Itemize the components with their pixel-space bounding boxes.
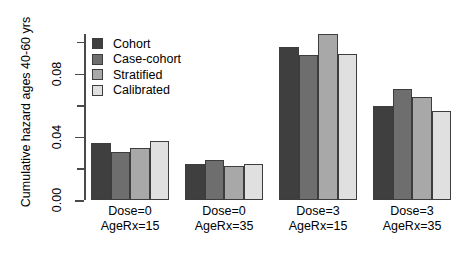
bar-chart-figure: Cumulative hazard ages 40-60 yrs 0.000.0… — [0, 0, 467, 255]
x-axis-group-label: Dose=3AgeRx=15 — [268, 204, 368, 234]
y-axis-tick-label: 0.00 — [50, 183, 64, 217]
legend-item: Case-cohort — [92, 52, 242, 68]
bar — [111, 152, 131, 200]
bar — [150, 141, 170, 200]
x-axis-label-line: Dose=0 — [80, 204, 180, 219]
bar — [91, 143, 111, 200]
bar — [279, 47, 299, 200]
legend-swatch-icon — [92, 85, 103, 96]
legend-label: Cohort — [113, 38, 151, 51]
bar — [224, 166, 244, 200]
y-axis-tick — [77, 42, 84, 44]
legend-item: Calibrated — [92, 83, 242, 99]
legend-item: Stratified — [92, 67, 242, 83]
y-axis-tick — [75, 74, 84, 76]
bar — [338, 54, 358, 200]
chart-legend: CohortCase-cohortStratifiedCalibrated — [92, 36, 242, 98]
y-axis-tick-label: 0.08 — [50, 57, 64, 91]
bar — [393, 89, 413, 200]
bar — [185, 164, 205, 200]
y-axis-tick — [75, 137, 84, 139]
legend-label: Stratified — [113, 69, 162, 82]
legend-swatch-icon — [92, 69, 103, 80]
bar — [130, 148, 150, 200]
bar — [432, 111, 452, 200]
legend-label: Calibrated — [113, 84, 170, 97]
bar — [299, 55, 319, 200]
bar — [244, 164, 264, 200]
bar — [412, 97, 432, 200]
bar — [318, 34, 338, 200]
y-axis-tick-label: 0.04 — [50, 120, 64, 154]
x-axis-label-line: AgeRx=35 — [174, 219, 274, 234]
legend-swatch-icon — [92, 38, 103, 49]
legend-swatch-icon — [92, 54, 103, 65]
x-axis-label-line: AgeRx=15 — [80, 219, 180, 234]
x-axis-group-label: Dose=0AgeRx=15 — [80, 204, 180, 234]
x-axis-label-line: Dose=3 — [362, 204, 462, 219]
x-axis-label-line: AgeRx=35 — [362, 219, 462, 234]
bar-group — [373, 30, 451, 200]
y-axis-tick — [77, 105, 84, 107]
bar — [205, 160, 225, 200]
x-axis-label-line: Dose=3 — [268, 204, 368, 219]
bar — [373, 106, 393, 200]
y-axis-tick — [77, 168, 84, 170]
x-axis-group-label: Dose=3AgeRx=35 — [362, 204, 462, 234]
x-axis-label-line: Dose=0 — [174, 204, 274, 219]
y-axis-tick — [75, 200, 84, 202]
bar-group — [279, 30, 357, 200]
legend-label: Case-cohort — [113, 53, 181, 66]
y-axis-title: Cumulative hazard ages 40-60 yrs — [19, 12, 33, 212]
x-axis-label-line: AgeRx=15 — [268, 219, 368, 234]
legend-item: Cohort — [92, 36, 242, 52]
x-axis-group-label: Dose=0AgeRx=35 — [174, 204, 274, 234]
